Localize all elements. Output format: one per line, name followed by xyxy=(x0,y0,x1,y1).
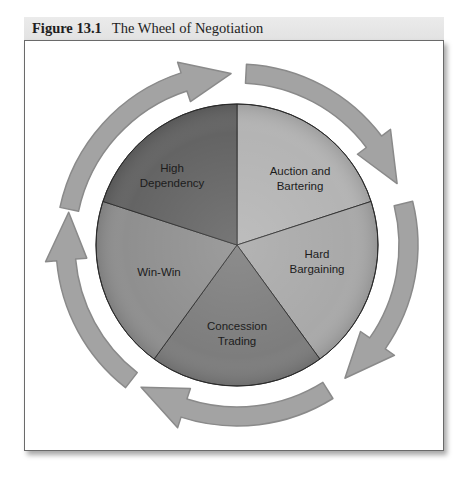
cycle-arrow-icon xyxy=(141,382,333,427)
wheel-of-negotiation-diagram: Auction andBarteringHardBargainingConces… xyxy=(0,0,469,482)
slice-label: Win-Win xyxy=(137,266,180,278)
